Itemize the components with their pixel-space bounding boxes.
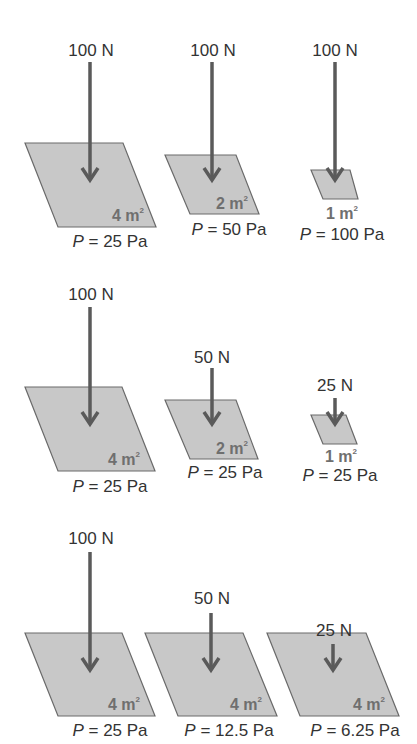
force-label: 25 N: [317, 377, 353, 394]
pressure-label: P = 25 Pa: [187, 464, 262, 481]
force-label: 100 N: [68, 42, 113, 59]
pressure-label: P = 25 Pa: [72, 478, 147, 495]
pressure-label: P = 50 Pa: [191, 221, 266, 238]
area-label: 2 m2: [216, 440, 248, 457]
area-label: 4 m2: [112, 207, 144, 224]
arrow-down-icon: [204, 368, 220, 424]
force-label: 100 N: [312, 42, 357, 59]
force-label: 100 N: [68, 286, 113, 303]
arrow-down-icon: [327, 62, 343, 180]
force-label: 100 N: [190, 42, 235, 59]
force-label: 100 N: [68, 530, 113, 547]
area-label: 1 m2: [325, 448, 357, 465]
force-label: 50 N: [194, 590, 230, 607]
area-label: 2 m2: [216, 195, 248, 212]
row-2: [25, 307, 357, 471]
diagram-graphics: .plate { fill: #c8c8c8; stroke: #6a6a6a;…: [0, 0, 417, 744]
pressure-label: P = 25 Pa: [302, 467, 377, 484]
area-label: 4 m2: [108, 451, 140, 468]
pressure-diagram: .plate { fill: #c8c8c8; stroke: #6a6a6a;…: [0, 0, 417, 744]
pressure-label: P = 100 Pa: [300, 226, 385, 243]
force-label: 50 N: [194, 349, 230, 366]
pressure-label: P = 12.5 Pa: [184, 722, 273, 739]
area-label: 4 m2: [230, 696, 262, 713]
pressure-label: P = 25 Pa: [72, 722, 147, 739]
pressure-label: P = 6.25 Pa: [310, 722, 399, 739]
row-1: [25, 62, 358, 227]
area-label: 4 m2: [108, 696, 140, 713]
area-label: 4 m2: [353, 696, 385, 713]
pressure-label: P = 25 Pa: [72, 233, 147, 250]
force-label: 25 N: [316, 622, 352, 639]
area-label: 1 m2: [326, 205, 358, 222]
